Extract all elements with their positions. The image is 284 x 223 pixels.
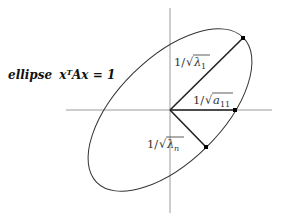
- svg-text:11: 11: [220, 100, 230, 109]
- point-lambda1: [241, 36, 245, 40]
- ellipse-diagram: ellipse xᵀAx = 1 1/ √ λ 1 1/ √ a 11 1/ √…: [0, 0, 284, 223]
- svg-text:n: n: [174, 144, 179, 153]
- segment-lambdan: [170, 110, 206, 147]
- svg-text:1: 1: [201, 62, 206, 71]
- svg-text:√: √: [159, 137, 167, 151]
- svg-text:1/: 1/: [174, 55, 185, 69]
- ellipse-equation-label: ellipse xᵀAx = 1: [8, 68, 115, 82]
- label-a11: 1/ √ a 11: [193, 93, 233, 109]
- point-lambdan: [204, 145, 208, 149]
- label-lambda1: 1/ √ λ 1: [174, 55, 210, 71]
- svg-text:√: √: [186, 55, 194, 69]
- svg-text:√: √: [205, 93, 213, 107]
- point-a11: [233, 108, 237, 112]
- label-lambdan: 1/ √ λ n: [147, 137, 184, 153]
- svg-text:a: a: [213, 93, 220, 107]
- svg-text:1/: 1/: [147, 137, 158, 151]
- svg-text:1/: 1/: [193, 93, 204, 107]
